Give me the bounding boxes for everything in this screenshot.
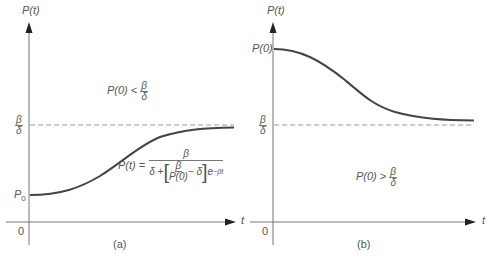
condition-label-a: P(0) < βδ: [107, 81, 148, 102]
asymptote-label-a: βδ: [15, 115, 23, 136]
y-axis-label-b: P(t): [267, 4, 285, 16]
origin-label-a: 0: [18, 225, 24, 237]
x-axis-label-b: t: [482, 214, 485, 226]
x-axis-label-a: t: [241, 214, 244, 226]
start-label-a: P0: [14, 188, 26, 203]
start-label-b: P(0): [252, 42, 273, 54]
logistic-curve-b: [274, 49, 474, 121]
x-axis-arrow-a: [225, 219, 236, 226]
y-axis-arrow-b: [270, 22, 277, 33]
asymptote-label-b: βδ: [259, 115, 267, 136]
origin-label-b: 0: [262, 225, 268, 237]
y-axis-label-a: P(t): [22, 4, 40, 16]
y-axis-arrow-a: [26, 22, 33, 33]
x-axis-arrow-b: [465, 219, 476, 226]
caption-a: (a): [113, 238, 126, 250]
caption-b: (b): [357, 238, 370, 250]
formula-a: P(t) = β δ + [ βP(0) − δ ] e −βt: [118, 148, 223, 182]
condition-label-b: P(0) > βδ: [356, 167, 397, 188]
